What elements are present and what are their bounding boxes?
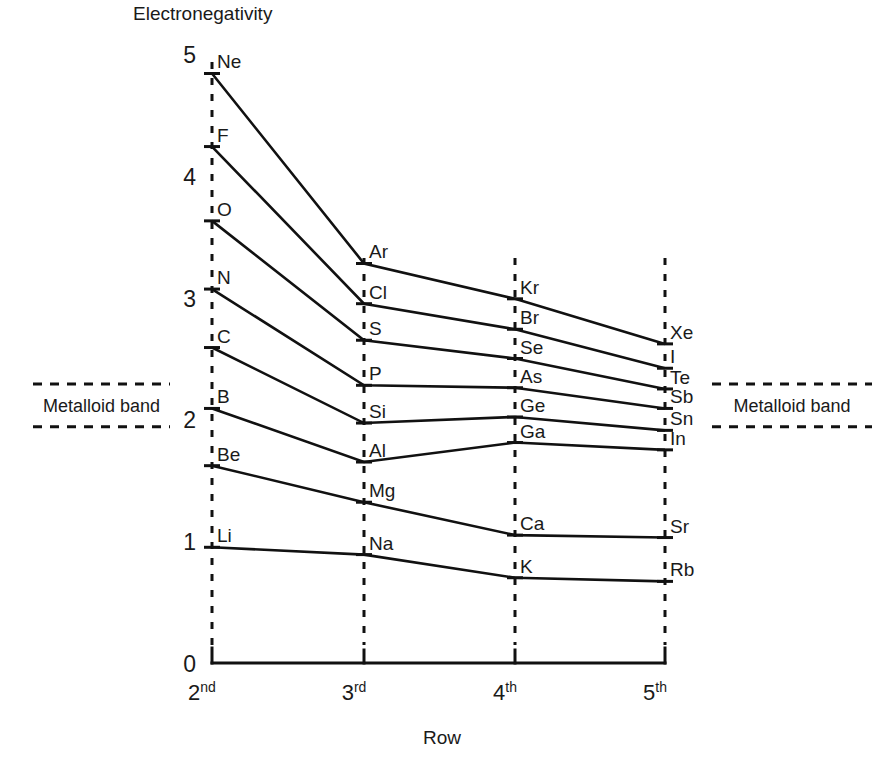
series-line-5 [212, 408, 665, 462]
y-axis-title: Electronegativity [133, 3, 273, 24]
point-label-Al: Al [369, 440, 386, 461]
x-axis-tick-labels: 2nd3rd4th5th [188, 679, 667, 705]
point-label-Ca: Ca [520, 513, 545, 534]
point-label-Cl: Cl [369, 282, 387, 303]
x-tick-label-5th: 5th [643, 679, 667, 705]
y-tick-label: 4 [183, 164, 196, 190]
point-label-Be: Be [217, 444, 240, 465]
point-label-Mg: Mg [369, 480, 395, 501]
point-label-Br: Br [520, 307, 540, 328]
point-label-Sn: Sn [670, 408, 693, 429]
point-label-Rb: Rb [670, 559, 694, 580]
x-tick-base: 3 [342, 680, 354, 705]
x-axis-title: Row [423, 727, 461, 748]
point-label-Ar: Ar [369, 241, 389, 262]
series-line-7 [212, 547, 665, 581]
x-tick-base: 2 [188, 680, 200, 705]
axis-frame [212, 648, 665, 663]
point-label-K: K [520, 556, 533, 577]
x-tick-label-4th: 4th [493, 679, 517, 705]
x-tick-superscript: nd [200, 679, 216, 695]
point-label-P: P [369, 363, 382, 384]
point-label-O: O [217, 199, 232, 220]
series-line-1 [212, 147, 665, 369]
x-tick-superscript: th [655, 679, 667, 695]
y-tick-label: 2 [183, 407, 196, 433]
y-tick-label: 0 [183, 651, 196, 677]
point-label-In: In [670, 428, 686, 449]
point-label-I: I [670, 346, 675, 367]
x-tick-label-2nd: 2nd [188, 679, 216, 705]
y-tick-label: 3 [183, 286, 196, 312]
y-tick-label: 5 [183, 42, 196, 68]
point-label-B: B [217, 386, 230, 407]
x-tick-base: 5 [643, 680, 655, 705]
category-gridlines [212, 62, 665, 645]
x-tick-base: 4 [493, 680, 505, 705]
data-point-labels: NeArKrXeFClBrIOSSeTeNPAsSbCSiGeSnBAlGaIn… [217, 51, 694, 580]
metalloid-band-right-label: Metalloid band [733, 396, 850, 416]
x-tick-superscript: rd [354, 679, 366, 695]
x-tick-label-3rd: 3rd [342, 679, 367, 705]
series-line-6 [212, 466, 665, 538]
point-label-Sr: Sr [670, 516, 690, 537]
point-label-Se: Se [520, 337, 543, 358]
series-line-4 [212, 348, 665, 431]
y-axis-tick-labels: 012345 [183, 42, 196, 677]
point-label-Kr: Kr [520, 277, 540, 298]
electronegativity-chart: Electronegativity 012345 NeArKrXeFClBrIO… [0, 0, 884, 758]
series-line-2 [212, 221, 665, 389]
point-label-Ne: Ne [217, 51, 241, 72]
point-label-Sb: Sb [670, 386, 693, 407]
point-label-Na: Na [369, 533, 394, 554]
metalloid-band-left-label: Metalloid band [43, 396, 160, 416]
point-label-Xe: Xe [670, 322, 693, 343]
point-label-As: As [520, 366, 542, 387]
point-label-N: N [217, 267, 231, 288]
point-label-Ga: Ga [520, 421, 546, 442]
point-label-F: F [217, 125, 229, 146]
chart-canvas: Electronegativity 012345 NeArKrXeFClBrIO… [0, 0, 884, 758]
point-label-Si: Si [369, 401, 386, 422]
point-label-Ge: Ge [520, 395, 545, 416]
y-tick-label: 1 [183, 529, 196, 555]
x-tick-superscript: th [505, 679, 517, 695]
series-line-0 [212, 73, 665, 343]
point-label-Li: Li [217, 525, 232, 546]
point-label-C: C [217, 326, 231, 347]
point-label-S: S [369, 318, 382, 339]
series-lines [212, 73, 665, 581]
point-label-Te: Te [670, 367, 690, 388]
